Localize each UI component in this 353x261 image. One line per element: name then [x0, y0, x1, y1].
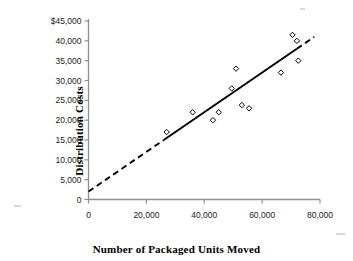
trend-line-solid-segment	[164, 49, 297, 140]
data-point-marker	[290, 32, 295, 37]
regression-trend-line	[89, 37, 315, 192]
data-point-marker	[239, 102, 244, 107]
plot-area	[0, 0, 353, 261]
trend-line-dashed-segment	[297, 37, 314, 49]
y-axis-tick-label: 40,000	[56, 37, 82, 46]
data-point-marker	[164, 129, 169, 134]
y-axis-tick-label: $45,000	[51, 17, 82, 26]
data-point-marker	[216, 110, 221, 115]
x-axis-tick-label: 40,000	[191, 211, 217, 220]
trend-line-dashed-segment	[89, 140, 164, 192]
data-point-marker	[190, 110, 195, 115]
x-axis-tick-label: 0	[86, 211, 91, 220]
scan-artifact-speck	[300, 8, 305, 10]
data-point-markers	[164, 32, 301, 135]
scan-artifact-speck	[336, 233, 345, 235]
data-point-marker	[210, 117, 215, 122]
data-point-marker	[246, 106, 251, 111]
x-axis-tick-label: 20,000	[133, 211, 159, 220]
x-axis-tick-label: 60,000	[249, 211, 275, 220]
scatter-chart-figure: 05,00010,00015,00020,00025,00030,00035,0…	[0, 0, 353, 261]
data-point-marker	[229, 86, 234, 91]
data-point-marker	[278, 70, 283, 75]
data-point-marker	[294, 38, 299, 43]
x-axis-tick-label: 80,000	[307, 211, 333, 220]
x-axis-title: Number of Packaged Units Moved	[93, 243, 261, 255]
scan-artifact-speck	[14, 205, 21, 207]
data-point-marker	[233, 66, 238, 71]
data-point-marker	[296, 58, 301, 63]
y-axis-title: Distribution Costs	[73, 56, 85, 206]
